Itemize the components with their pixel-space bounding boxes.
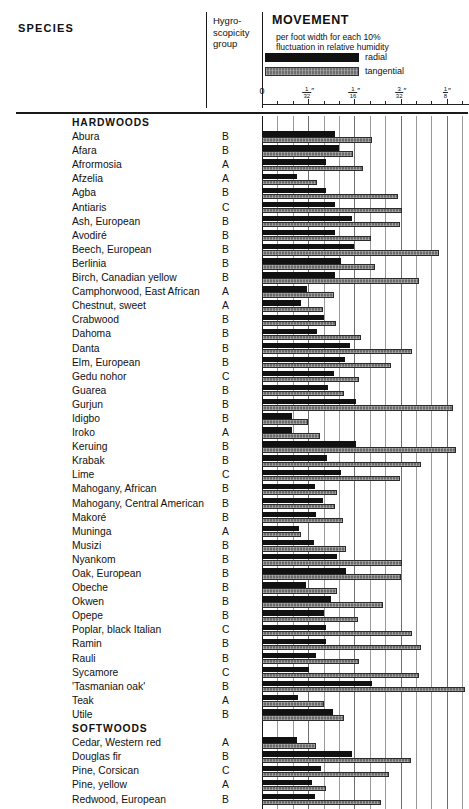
hygro-header-line2: scopicity [213, 27, 261, 39]
hygroscopicity-group: A [222, 694, 229, 708]
movement-bars [262, 327, 469, 341]
movement-bars [262, 384, 469, 398]
bar-radial [262, 427, 292, 432]
hygroscopicity-group: A [222, 426, 229, 440]
hygroscopicity-group: B [222, 130, 229, 144]
table-row: Oak, EuropeanB [0, 567, 469, 581]
bar-radial [262, 244, 354, 249]
table-row: NyankomB [0, 553, 469, 567]
bar-tangential [262, 743, 316, 748]
table-row: AgbaB [0, 186, 469, 200]
bar-tangential [262, 264, 375, 269]
bar-tangential [262, 391, 344, 396]
hygroscopicity-group: A [222, 172, 229, 186]
bar-tangential [262, 560, 402, 565]
species-name: Ash, European [72, 215, 140, 229]
bar-tangential [262, 377, 359, 382]
x-axis-tick-label: 0 [259, 86, 264, 96]
hygroscopicity-group: B [222, 327, 229, 341]
species-name: Crabwood [72, 313, 119, 327]
hygro-header-line3: group [213, 38, 261, 50]
movement-bars [262, 201, 469, 215]
movement-bars [262, 581, 469, 595]
hygroscopicity-group: A [222, 285, 229, 299]
species-name: Iroko [72, 426, 95, 440]
hygroscopicity-group: B [222, 497, 229, 511]
hygroscopicity-group: B [222, 356, 229, 370]
bar-radial [262, 780, 312, 785]
table-row: GuareaB [0, 384, 469, 398]
bar-radial [262, 230, 335, 235]
movement-bars [262, 285, 469, 299]
species-name: Dahoma [72, 327, 111, 341]
hygroscopicity-group: B [222, 708, 229, 722]
hygroscopicity-group: C [222, 201, 229, 215]
hygroscopicity-group: B [222, 412, 229, 426]
bar-radial [262, 596, 331, 601]
hygroscopicity-group: B [222, 750, 229, 764]
hygroscopicity-group: B [222, 609, 229, 623]
bar-tangential [262, 687, 465, 692]
movement-bars [262, 440, 469, 454]
bar-tangential [262, 786, 326, 791]
bar-radial [262, 751, 352, 756]
table-row: CrabwoodB [0, 313, 469, 327]
hygroscopicity-group: B [222, 257, 229, 271]
bar-tangential [262, 701, 324, 706]
table-row: BerliniaB [0, 257, 469, 271]
bar-radial [262, 681, 372, 686]
table-row: Douglas firB [0, 750, 469, 764]
hygroscopicity-group: B [222, 581, 229, 595]
bar-tangential [262, 137, 372, 142]
movement-bars [262, 694, 469, 708]
species-name: Teak [72, 694, 94, 708]
bar-tangential [262, 433, 320, 438]
bar-radial [262, 737, 297, 742]
table-row: IdigboB [0, 412, 469, 426]
movement-bars [262, 130, 469, 144]
bar-radial [262, 343, 350, 348]
table-row: LimeC [0, 468, 469, 482]
hygroscopicity-group: A [222, 778, 229, 792]
hygroscopicity-group: B [222, 793, 229, 807]
bar-tangential [262, 546, 346, 551]
hygroscopicity-group: B [222, 680, 229, 694]
bar-radial [262, 554, 337, 559]
x-axis-tick-label: 18″ [443, 86, 451, 99]
species-name: Birch, Canadian yellow [72, 271, 177, 285]
bar-radial [262, 131, 335, 136]
hygroscopicity-group: B [222, 454, 229, 468]
table-row: SycamoreC [0, 666, 469, 680]
table-row: AfaraB [0, 144, 469, 158]
species-column-header: SPECIES [18, 22, 74, 34]
table-row: AfrormosiaA [0, 158, 469, 172]
bar-radial [262, 610, 324, 615]
species-name: Gurjun [72, 398, 103, 412]
table-row: Beech, EuropeanB [0, 243, 469, 257]
bar-radial [262, 766, 321, 771]
bar-radial [262, 484, 315, 489]
movement-bars [262, 172, 469, 186]
bar-radial [262, 470, 341, 475]
x-axis-tick-minor [416, 101, 417, 105]
table-row: MuningaA [0, 525, 469, 539]
x-axis-tick-major [401, 99, 402, 105]
table-row: RauliB [0, 652, 469, 666]
movement-bars [262, 398, 469, 412]
bar-tangential [262, 588, 337, 593]
table-row: Ash, EuropeanB [0, 215, 469, 229]
bar-radial [262, 188, 326, 193]
bar-tangential [262, 490, 337, 495]
table-row: TeakA [0, 694, 469, 708]
table-row: Camphorwood, East AfricanA [0, 285, 469, 299]
movement-bars [262, 271, 469, 285]
bar-tangential [262, 631, 412, 636]
bar-tangential [262, 278, 419, 283]
table-row: AfzeliaA [0, 172, 469, 186]
bar-tangential [262, 758, 411, 763]
legend-label-radial: radial [365, 52, 387, 63]
table-row: Redwood, EuropeanB [0, 793, 469, 807]
hygro-column-divider [206, 12, 207, 108]
bar-tangential [262, 180, 317, 185]
